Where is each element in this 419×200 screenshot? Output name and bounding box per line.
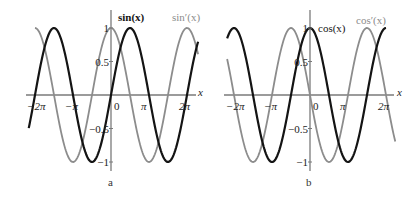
y-tick-label: 1: [303, 22, 309, 34]
x-tick-label: −2π: [27, 100, 46, 112]
y-tick-label: −1: [296, 156, 308, 168]
x-tick-label: 2π: [179, 100, 191, 112]
x-axis-label: x: [197, 86, 203, 98]
panel-caption-b: b: [306, 176, 312, 188]
chart-canvas: −2π−π0π2π10.5−0.5−1 x sin(x) sin′(x) a −…: [0, 0, 419, 200]
x-tick-label: π: [340, 100, 346, 112]
legend-sin-derivative: sin′(x): [172, 11, 200, 24]
x-tick-label: −π: [65, 100, 78, 112]
y-tick-label: 1: [104, 22, 110, 34]
y-tick-label: −0.5: [89, 123, 109, 135]
panel-a-sine: −2π−π0π2π10.5−0.5−1 x sin(x) sin′(x) a: [26, 10, 203, 188]
legend-cos-derivative: cos′(x): [356, 14, 386, 27]
x-tick-label: 0: [313, 100, 319, 112]
y-tick-label: 0.5: [95, 56, 109, 68]
x-tick-label: −π: [264, 100, 277, 112]
y-tick-label: −1: [97, 156, 109, 168]
panel-caption-a: a: [108, 176, 113, 188]
x-tick-label: 2π: [378, 100, 390, 112]
legend-cos: cos(x): [318, 22, 346, 35]
x-tick-label: −2π: [226, 100, 245, 112]
y-tick-label: −0.5: [288, 123, 308, 135]
x-tick-label: π: [141, 100, 147, 112]
y-tick-label: 0.5: [294, 56, 308, 68]
x-tick-label: 0: [114, 100, 120, 112]
legend-sin: sin(x): [118, 11, 145, 24]
x-axis-label: x: [396, 86, 402, 98]
panel-b-cosine: −2π−π0π2π10.5−0.5−1 x cos(x) cos′(x) b: [224, 10, 402, 188]
